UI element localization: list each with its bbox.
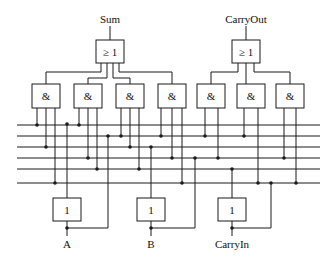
or-carryout-symbol: ≥ 1 <box>239 47 253 58</box>
and-5-symbol: & <box>207 91 216 102</box>
input-b-wiring <box>137 145 197 236</box>
full-adder-diagram: Sum CarryOut ≥ 1 ≥ 1 & & & & & & & 1 1 1… <box>0 0 333 262</box>
not-b-symbol: 1 <box>148 205 154 216</box>
output-label-carryout: CarryOut <box>225 14 267 25</box>
circuit-wiring <box>0 0 333 262</box>
bus-lines <box>17 125 320 183</box>
and-1-symbol: & <box>42 91 51 102</box>
input-label-b: B <box>147 239 154 250</box>
and-input-taps <box>35 108 298 185</box>
output-label-sum: Sum <box>100 14 120 25</box>
input-label-a: A <box>63 239 71 250</box>
not-carryin-symbol: 1 <box>229 205 235 216</box>
input-a-wiring <box>53 122 110 236</box>
and-6-symbol: & <box>247 91 256 102</box>
and-3-symbol: & <box>126 91 135 102</box>
input-label-carryin: CarryIn <box>215 239 249 250</box>
and-7-symbol: & <box>286 91 295 102</box>
and-2-symbol: & <box>84 91 93 102</box>
not-a-symbol: 1 <box>64 205 70 216</box>
input-carryin-wiring <box>218 167 273 236</box>
and-4-symbol: & <box>168 91 177 102</box>
or-sum-symbol: ≥ 1 <box>103 47 117 58</box>
